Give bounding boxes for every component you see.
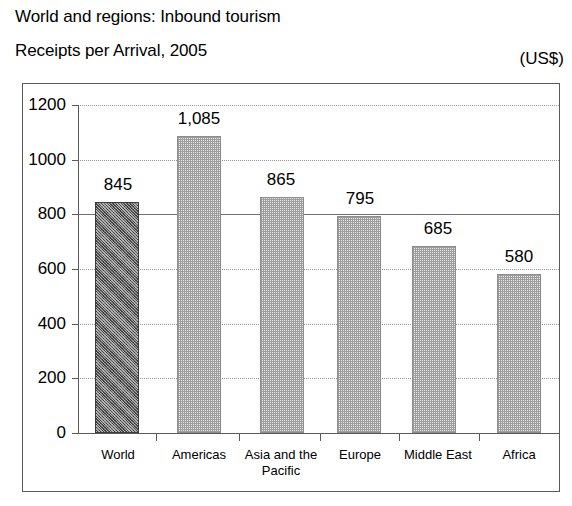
bar-africa[interactable] [497, 274, 541, 433]
bar-world[interactable] [95, 202, 139, 433]
gridline-600 [78, 269, 559, 270]
bar-americas[interactable] [177, 136, 221, 433]
x-category-label-line: Africa [464, 447, 572, 463]
x-category-label-middle-east: Middle East [383, 447, 493, 463]
gridline-1200 [78, 105, 559, 106]
y-tick-label-400: 400 [38, 315, 66, 332]
gridline-1000 [78, 160, 559, 161]
y-tick-label-200: 200 [38, 369, 66, 386]
y-tick-label-0: 0 [57, 424, 66, 441]
x-category-label-europe: Europe [305, 447, 415, 463]
x-tick-0 [156, 433, 157, 441]
bar-value-label-africa: 580 [474, 248, 564, 266]
y-tick-label-1000: 1000 [28, 151, 66, 168]
x-category-label-line: Americas [144, 447, 254, 463]
y-tick-600 [72, 269, 79, 270]
y-tick-label-800: 800 [38, 205, 66, 222]
y-tick-label-600: 600 [38, 260, 66, 277]
bar-europe[interactable] [337, 216, 381, 433]
x-category-label-line: Pacific [226, 463, 336, 479]
x-axis-line [78, 433, 560, 434]
units-label: (US$) [520, 48, 564, 70]
y-tick-400 [72, 324, 79, 325]
x-tick-1 [239, 433, 240, 441]
bar-middle-east[interactable] [412, 246, 456, 433]
bar-value-label-asia-and-the-pacific: 865 [236, 171, 326, 189]
x-tick-2 [320, 433, 321, 441]
x-category-label-line: Middle East [383, 447, 493, 463]
y-tick-1200 [72, 105, 79, 106]
y-tick-800 [72, 214, 79, 215]
x-category-label-line: Asia and the [226, 447, 336, 463]
plot-area: 020040060080010001200 8451,0858657956855… [78, 105, 559, 433]
x-category-label-africa: Africa [464, 447, 572, 463]
page-title-line-1: World and regions: Inbound tourism [15, 6, 281, 28]
bar-value-label-world: 845 [73, 176, 163, 194]
bar-value-label-europe: 795 [315, 190, 405, 208]
x-category-label-asia-and-the-pacific: Asia and thePacific [226, 447, 336, 479]
gridline-400 [78, 324, 559, 325]
x-tick-5 [559, 433, 560, 441]
x-category-label-line: Europe [305, 447, 415, 463]
chart-page: World and regions: Inbound tourism Recei… [0, 0, 572, 506]
x-tick-4 [479, 433, 480, 441]
y-tick-label-1200: 1200 [28, 96, 66, 113]
x-category-label-americas: Americas [144, 447, 254, 463]
y-tick-1000 [72, 160, 79, 161]
x-tick-3 [399, 433, 400, 441]
bar-asia-and-the-pacific[interactable] [260, 197, 304, 433]
bar-value-label-middle-east: 685 [393, 220, 483, 238]
y-tick-200 [72, 378, 79, 379]
gridline-800 [78, 214, 559, 215]
x-category-label-line: World [63, 447, 173, 463]
chart-frame: 020040060080010001200 8451,0858657956855… [22, 83, 560, 492]
x-category-label-world: World [63, 447, 173, 463]
bar-value-label-americas: 1,085 [154, 110, 244, 128]
gridline-200 [78, 378, 559, 379]
page-title-line-2: Receipts per Arrival, 2005 [15, 40, 207, 62]
